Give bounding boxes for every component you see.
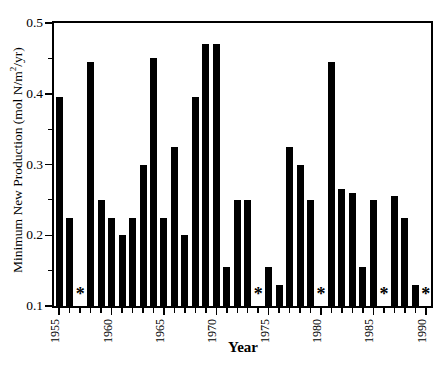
x-tick-1985 bbox=[373, 308, 375, 315]
y-axis-title-superscript: 2 bbox=[8, 67, 18, 72]
bar-1964 bbox=[150, 58, 157, 306]
x-tick-label-1965: 1965 bbox=[153, 319, 167, 343]
bar-1972 bbox=[234, 200, 241, 306]
x-tick-1983 bbox=[352, 308, 354, 313]
x-tick-1957 bbox=[79, 308, 81, 313]
bar-1987 bbox=[391, 196, 398, 306]
missing-data-asterisk-1990: * bbox=[418, 284, 434, 304]
bar-1958 bbox=[87, 62, 94, 306]
x-tick-1962 bbox=[132, 308, 134, 313]
x-tick-label-1990: 1990 bbox=[415, 319, 429, 343]
bar-1981 bbox=[328, 62, 335, 306]
x-tick-1975 bbox=[268, 308, 270, 315]
x-tick-label-1980: 1980 bbox=[310, 319, 324, 343]
x-tick-1988 bbox=[404, 308, 406, 313]
y-tick-label-0.1: 0.1 bbox=[11, 298, 43, 314]
y-tick-0.2 bbox=[45, 235, 52, 237]
bar-1971 bbox=[223, 267, 230, 306]
x-tick-1986 bbox=[383, 308, 385, 313]
x-tick-label-1985: 1985 bbox=[362, 319, 376, 343]
x-tick-1966 bbox=[174, 308, 176, 313]
bar-1984 bbox=[359, 267, 366, 306]
x-tick-1956 bbox=[69, 308, 71, 313]
missing-data-asterisk-1957: * bbox=[72, 284, 88, 304]
bar-1968 bbox=[192, 97, 199, 306]
bar-1982 bbox=[338, 189, 345, 306]
x-tick-1971 bbox=[226, 308, 228, 313]
bar-1959 bbox=[98, 200, 105, 306]
bar-1988 bbox=[401, 218, 408, 306]
x-tick-label-1960: 1960 bbox=[101, 319, 115, 343]
x-tick-1970 bbox=[216, 308, 218, 315]
x-tick-1961 bbox=[121, 308, 123, 313]
x-tick-1972 bbox=[237, 308, 239, 313]
x-tick-1965 bbox=[163, 308, 165, 315]
y-tick-0.3 bbox=[45, 164, 52, 166]
x-tick-label-1970: 1970 bbox=[205, 319, 219, 343]
x-tick-1964 bbox=[153, 308, 155, 313]
bar-1967 bbox=[181, 235, 188, 306]
y-tick-label-0.5: 0.5 bbox=[11, 15, 43, 31]
y-minor-tick-0.25 bbox=[48, 199, 52, 200]
missing-data-asterisk-1980: * bbox=[313, 284, 329, 304]
x-tick-1959 bbox=[100, 308, 102, 313]
bar-1970 bbox=[213, 44, 220, 306]
y-minor-tick-0.45 bbox=[48, 58, 52, 59]
bar-1975 bbox=[265, 267, 272, 306]
y-tick-0.5 bbox=[45, 22, 52, 24]
bar-1960 bbox=[108, 218, 115, 306]
bar-1969 bbox=[202, 44, 209, 306]
missing-data-asterisk-1974: * bbox=[250, 284, 266, 304]
y-tick-0.4 bbox=[45, 93, 52, 95]
figure: ***** Minimum New Production (mol N/m2/y… bbox=[0, 0, 446, 365]
x-tick-1960 bbox=[111, 308, 113, 315]
bar-1976 bbox=[276, 285, 283, 306]
x-tick-1977 bbox=[289, 308, 291, 313]
bar-1983 bbox=[349, 193, 356, 306]
y-axis-title-units: /yr) bbox=[10, 47, 25, 67]
bar-1963 bbox=[140, 165, 147, 307]
x-tick-1984 bbox=[362, 308, 364, 313]
x-tick-label-1975: 1975 bbox=[258, 319, 272, 343]
x-tick-1987 bbox=[394, 308, 396, 313]
x-tick-1958 bbox=[90, 308, 92, 313]
bar-1977 bbox=[286, 147, 293, 306]
x-tick-1990 bbox=[425, 308, 427, 315]
x-tick-1979 bbox=[310, 308, 312, 313]
x-tick-1978 bbox=[299, 308, 301, 313]
x-tick-1982 bbox=[341, 308, 343, 313]
x-tick-1955 bbox=[58, 308, 60, 315]
x-tick-1968 bbox=[195, 308, 197, 313]
bar-1978 bbox=[297, 165, 304, 307]
missing-data-asterisk-1986: * bbox=[376, 284, 392, 304]
bar-1965 bbox=[160, 218, 167, 306]
bar-1961 bbox=[119, 235, 126, 306]
x-tick-1963 bbox=[142, 308, 144, 313]
x-tick-1967 bbox=[184, 308, 186, 313]
x-tick-1973 bbox=[247, 308, 249, 313]
x-tick-1980 bbox=[320, 308, 322, 315]
x-tick-1976 bbox=[278, 308, 280, 313]
x-tick-1974 bbox=[257, 308, 259, 313]
x-tick-1989 bbox=[415, 308, 417, 313]
x-tick-1969 bbox=[205, 308, 207, 313]
bar-1962 bbox=[129, 218, 136, 306]
bar-1966 bbox=[171, 147, 178, 306]
plot-area: ***** bbox=[52, 21, 433, 308]
x-tick-label-1955: 1955 bbox=[48, 319, 62, 343]
y-tick-label-0.2: 0.2 bbox=[11, 227, 43, 243]
bar-1955 bbox=[56, 97, 63, 306]
y-minor-tick-0.15 bbox=[48, 270, 52, 271]
y-tick-0.1 bbox=[45, 305, 52, 307]
y-tick-label-0.3: 0.3 bbox=[11, 157, 43, 173]
x-tick-1981 bbox=[331, 308, 333, 313]
y-tick-label-0.4: 0.4 bbox=[11, 86, 43, 102]
y-minor-tick-0.35 bbox=[48, 129, 52, 130]
